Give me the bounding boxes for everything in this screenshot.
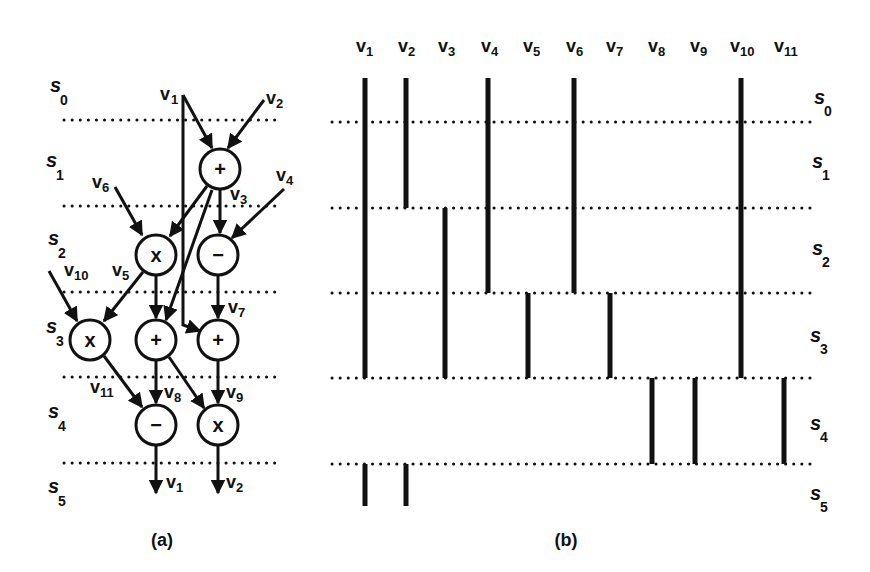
svg-text:3: 3 [240,192,247,207]
svg-text:−: − [150,414,162,436]
svg-text:2: 2 [236,480,243,495]
svg-text:1: 1 [171,92,178,107]
figure: s 0 s 1 s 2 s 3 s 4 s 5 [0,0,870,572]
svg-text:v: v [266,88,276,108]
edge-labels: v1 v2 v3 v4 v5 v6 v7 v8 v9 v10 v11 v1 v2 [64,84,294,495]
column-headers: v1 v2 v3 v4 v5 v6 v7 v8 v9 v10 v11 [356,36,798,59]
svg-text:2: 2 [58,245,66,261]
svg-text:x: x [84,329,95,351]
svg-text:v: v [438,36,448,56]
node-sub-s4: − [136,405,176,445]
svg-text:6: 6 [102,180,109,195]
svg-text:v: v [228,297,238,317]
svg-text:+: + [214,158,226,180]
node-mul-s4: x [198,405,238,445]
node-add-s3-b: + [198,320,238,360]
svg-text:v: v [92,172,102,192]
svg-text:v: v [356,36,366,56]
svg-text:v: v [481,36,491,56]
svg-text:v: v [398,36,408,56]
svg-text:10: 10 [74,268,88,283]
svg-text:v: v [276,165,286,185]
svg-text:11: 11 [100,385,114,400]
node-add-s1: + [200,149,240,189]
svg-text:v: v [112,260,122,280]
svg-text:4: 4 [58,418,66,434]
svg-text:7: 7 [238,305,245,320]
caption-b: (b) [555,530,578,550]
svg-text:2: 2 [276,96,283,111]
node-mul-s2: x [136,235,176,275]
svg-text:3: 3 [56,333,64,349]
panel-b-lifetimes: v1 v2 v3 v4 v5 v6 v7 v8 v9 v10 v11 [332,36,832,550]
svg-text:v: v [226,382,236,402]
svg-text:v: v [774,36,784,56]
svg-text:1: 1 [366,44,373,59]
svg-text:v: v [64,260,74,280]
svg-text:4: 4 [820,429,828,445]
svg-text:v: v [230,184,240,204]
svg-text:1: 1 [56,167,64,183]
svg-text:v: v [226,472,236,492]
svg-text:v: v [648,36,658,56]
svg-text:4: 4 [491,44,499,59]
svg-text:7: 7 [616,44,623,59]
svg-text:3: 3 [820,341,828,357]
svg-text:v: v [523,36,533,56]
svg-text:9: 9 [700,44,707,59]
svg-text:v: v [690,36,700,56]
step-labels-b: s 0 s 1 s 2 s 3 s 4 s 5 [810,86,832,515]
svg-text:4: 4 [286,173,294,188]
svg-text:−: − [212,244,224,266]
panel-a-dfg: s 0 s 1 s 2 s 3 s 4 s 5 [46,74,294,550]
svg-text:5: 5 [58,493,66,509]
svg-text:x: x [150,244,161,266]
node-mul-s3: x [70,320,110,360]
svg-text:10: 10 [740,44,754,59]
svg-text:5: 5 [122,268,129,283]
svg-text:8: 8 [658,44,665,59]
svg-text:x: x [212,414,223,436]
svg-text:11: 11 [784,44,798,59]
svg-text:5: 5 [820,499,828,515]
svg-text:8: 8 [174,390,181,405]
svg-text:v: v [606,36,616,56]
svg-text:+: + [150,329,162,351]
svg-text:2: 2 [408,44,415,59]
node-sub-s2: − [198,235,238,275]
svg-text:v: v [730,36,740,56]
svg-text:+: + [212,329,224,351]
svg-text:5: 5 [533,44,540,59]
svg-text:3: 3 [448,44,455,59]
svg-text:9: 9 [236,390,243,405]
svg-text:v: v [166,472,176,492]
svg-text:v: v [90,377,100,397]
svg-text:2: 2 [822,254,830,270]
svg-text:1: 1 [176,480,183,495]
node-add-s3-a: + [136,320,176,360]
svg-text:6: 6 [576,44,583,59]
svg-text:1: 1 [822,167,830,183]
svg-text:0: 0 [60,92,68,108]
svg-text:0: 0 [824,103,832,119]
svg-text:v: v [160,84,170,104]
svg-text:v: v [164,382,174,402]
svg-text:v: v [566,36,576,56]
caption-a: (a) [151,530,173,550]
